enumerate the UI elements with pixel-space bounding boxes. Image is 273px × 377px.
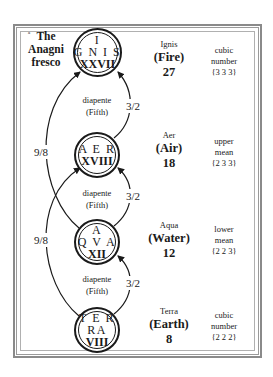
element-value: 18	[139, 156, 199, 171]
element-info-terra: Terra (Earth) 8	[139, 306, 199, 347]
circle-numeral: XII	[88, 248, 106, 261]
desc-line: {2 2 3}	[199, 246, 249, 257]
element-info-aer: Aer (Air) 18	[139, 130, 199, 171]
desc-line: number	[199, 56, 249, 67]
desc-line: upper	[199, 136, 249, 147]
element-circle-terra: T E R RA VIII	[74, 307, 120, 353]
number-desc-aer: upper mean {2 3 3}	[199, 136, 249, 169]
title-line: Anagni	[21, 43, 71, 56]
fifth-ratio-label: 3/2	[126, 189, 140, 203]
circle-text: Q V A	[78, 236, 116, 248]
element-latin: Aer	[139, 130, 199, 141]
element-info-aqua: Aqua (Water) 12	[139, 220, 199, 261]
interval-translation: (Fifth)	[67, 199, 127, 211]
interval-label: diapente (Fifth)	[67, 187, 127, 211]
element-value: 27	[139, 65, 199, 80]
interval-name: diapente	[67, 94, 127, 106]
interval-translation: (Fifth)	[67, 285, 127, 297]
fifth-ratio-label: 3/2	[126, 99, 140, 113]
element-info-ignis: Ignis (Fire) 27	[139, 39, 199, 80]
desc-line: mean	[199, 235, 249, 246]
interval-translation: (Fifth)	[67, 106, 127, 118]
desc-line: {2 2 2}	[199, 332, 249, 343]
element-english: (Water)	[139, 231, 199, 246]
interval-name: diapente	[67, 273, 127, 285]
element-english: (Fire)	[139, 50, 199, 65]
circle-text: A E R	[79, 143, 116, 155]
circle-numeral: XVIII	[81, 155, 112, 168]
element-value: 8	[139, 332, 199, 347]
number-desc-ignis: cubic number {3 3 3}	[199, 45, 249, 78]
element-english: (Air)	[139, 141, 199, 156]
element-english: (Earth)	[139, 317, 199, 332]
circle-numeral: VIII	[86, 336, 109, 349]
circle-text: RA	[87, 324, 107, 336]
fifth-ratio-label: 3/2	[126, 276, 140, 290]
desc-line: cubic	[199, 310, 249, 321]
desc-line: {3 3 3}	[199, 67, 249, 78]
interval-label: diapente (Fifth)	[67, 94, 127, 118]
tone-ratio-label: 9/8	[34, 233, 48, 247]
desc-line: number	[199, 321, 249, 332]
title-line: fresco	[21, 56, 71, 69]
desc-line: mean	[199, 147, 249, 158]
interval-label: diapente (Fifth)	[67, 273, 127, 297]
footnote-mark: a	[28, 26, 30, 39]
interval-name: diapente	[67, 187, 127, 199]
desc-line: cubic	[199, 45, 249, 56]
desc-line: {2 3 3}	[199, 158, 249, 169]
number-desc-aqua: lower mean {2 2 3}	[199, 224, 249, 257]
number-desc-terra: cubic number {2 2 2}	[199, 310, 249, 343]
element-value: 12	[139, 246, 199, 261]
circle-text: A	[92, 224, 102, 236]
tone-ratio-label: 9/8	[34, 145, 48, 159]
circle-text: T E R	[79, 312, 115, 324]
desc-line: lower	[199, 224, 249, 235]
circle-numeral: XXVII	[80, 58, 115, 71]
element-latin: Aqua	[139, 220, 199, 231]
diagram-title: a The Anagni fresco	[21, 30, 71, 69]
element-circle-aqua: A Q V A XII	[74, 219, 120, 265]
element-latin: Ignis	[139, 39, 199, 50]
element-circle-ignis: I G N I S XXVII	[73, 28, 122, 77]
element-circle-aer: A E R XVIII	[74, 132, 120, 178]
element-latin: Terra	[139, 306, 199, 317]
